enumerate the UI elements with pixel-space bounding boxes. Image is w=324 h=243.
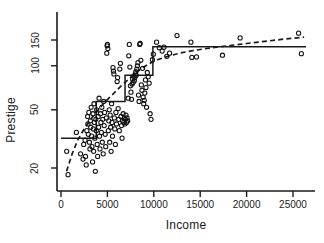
data-point bbox=[101, 152, 105, 156]
data-point bbox=[194, 55, 198, 59]
data-point bbox=[90, 160, 94, 164]
data-point bbox=[84, 163, 88, 167]
y-tick-label: 100 bbox=[22, 59, 48, 73]
data-point bbox=[175, 33, 179, 37]
smooth-fit-curve bbox=[67, 37, 305, 171]
data-point bbox=[137, 99, 141, 103]
data-point bbox=[149, 117, 153, 121]
data-point bbox=[98, 112, 102, 116]
data-point bbox=[109, 102, 113, 106]
data-point bbox=[120, 136, 124, 140]
data-point bbox=[78, 152, 82, 156]
data-point bbox=[106, 47, 110, 51]
data-point bbox=[114, 122, 118, 126]
data-point bbox=[93, 169, 97, 173]
y-tick-label-text: 50 bbox=[30, 104, 41, 115]
data-point bbox=[100, 140, 104, 144]
data-point bbox=[97, 96, 101, 100]
y-tick-label-text: 150 bbox=[30, 32, 41, 49]
data-point bbox=[112, 116, 116, 120]
x-tick-label: 25000 bbox=[270, 199, 316, 210]
data-point bbox=[112, 72, 116, 76]
data-point bbox=[103, 132, 107, 136]
scatter-plot-figure: Prestige Income 2050100150 0500010000150… bbox=[0, 0, 324, 243]
y-tick-label: 20 bbox=[22, 161, 48, 175]
data-point bbox=[148, 112, 152, 116]
data-point bbox=[220, 53, 224, 57]
data-point bbox=[128, 65, 132, 69]
data-point bbox=[144, 105, 148, 109]
data-point bbox=[74, 130, 78, 134]
data-point bbox=[113, 142, 117, 146]
data-point bbox=[87, 110, 91, 114]
data-point bbox=[98, 147, 102, 151]
y-tick-label: 150 bbox=[22, 33, 48, 47]
data-point bbox=[110, 134, 114, 138]
data-point bbox=[238, 36, 242, 40]
data-point bbox=[190, 55, 194, 59]
data-point bbox=[118, 61, 122, 65]
data-point bbox=[299, 52, 303, 56]
data-point bbox=[103, 110, 107, 114]
step-fit-line bbox=[61, 47, 306, 138]
data-point bbox=[65, 149, 69, 153]
data-point bbox=[107, 108, 111, 112]
data-point bbox=[85, 114, 89, 118]
data-point bbox=[127, 54, 131, 58]
data-point bbox=[139, 58, 143, 62]
data-point bbox=[116, 106, 120, 110]
data-point bbox=[96, 154, 100, 158]
data-point bbox=[139, 83, 143, 87]
data-point bbox=[144, 85, 148, 89]
data-point bbox=[296, 31, 300, 35]
x-tick-label: 0 bbox=[38, 199, 84, 210]
data-point bbox=[143, 91, 147, 95]
data-point bbox=[145, 70, 149, 74]
data-point bbox=[97, 125, 101, 129]
data-point bbox=[92, 149, 96, 153]
data-point bbox=[118, 67, 122, 71]
data-point bbox=[109, 149, 113, 153]
data-point bbox=[129, 90, 133, 94]
data-point bbox=[66, 173, 70, 177]
x-tick-label: 15000 bbox=[177, 199, 223, 210]
data-point bbox=[189, 40, 193, 44]
data-point bbox=[95, 142, 99, 146]
data-point bbox=[117, 129, 121, 133]
data-point bbox=[92, 102, 96, 106]
data-point bbox=[108, 140, 112, 144]
data-point bbox=[113, 127, 117, 131]
data-point bbox=[87, 140, 91, 144]
data-point bbox=[167, 51, 171, 55]
data-point bbox=[147, 81, 151, 85]
x-tick-label: 5000 bbox=[84, 199, 130, 210]
data-point bbox=[82, 142, 86, 146]
y-tick-label-text: 100 bbox=[30, 57, 41, 74]
data-point bbox=[104, 145, 108, 149]
data-point bbox=[154, 40, 158, 44]
data-point bbox=[109, 125, 113, 129]
data-point bbox=[127, 42, 131, 46]
y-tick-label: 50 bbox=[22, 103, 48, 117]
x-tick-label: 10000 bbox=[131, 199, 177, 210]
data-point bbox=[105, 51, 109, 55]
x-tick-label: 20000 bbox=[224, 199, 270, 210]
data-point bbox=[102, 123, 106, 127]
y-tick-label-text: 20 bbox=[30, 162, 41, 173]
data-point bbox=[108, 113, 112, 117]
data-point bbox=[83, 154, 87, 158]
data-point bbox=[136, 93, 140, 97]
